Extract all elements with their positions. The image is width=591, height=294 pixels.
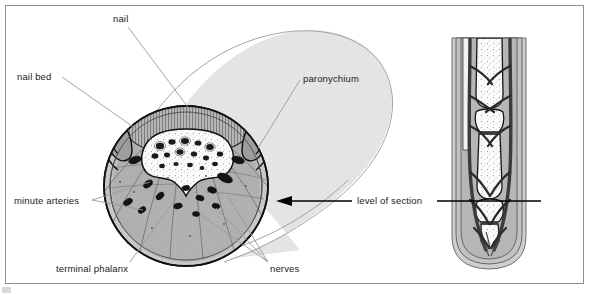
label-nail-bed: nail bed (17, 71, 51, 82)
leader-nail (128, 27, 190, 110)
label-nerves: nerves (270, 263, 299, 274)
scan-artifact (2, 287, 11, 293)
longitudinal-section-drawing (437, 38, 541, 269)
anatomy-figure: nail nail bed paronychium minute arterie… (0, 0, 591, 294)
label-paronychium: paronychium (303, 73, 359, 84)
label-minute-arteries: minute arteries (14, 195, 79, 206)
label-level-of-section: level of section (357, 195, 422, 206)
label-nail: nail (113, 13, 128, 24)
label-terminal-phalanx: terminal phalanx (56, 263, 128, 274)
leader-nail-bed (62, 77, 152, 140)
figure-illustration (0, 0, 591, 294)
